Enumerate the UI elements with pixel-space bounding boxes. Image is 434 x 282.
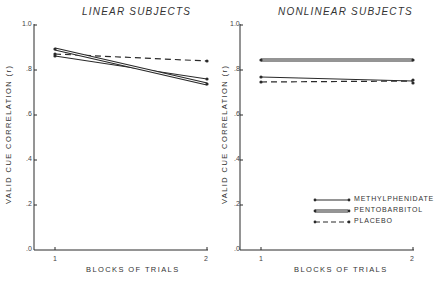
- plot-area: [216, 0, 432, 282]
- nonlinear-subjects-panel: NONLINEAR SUBJECTS VALID CUE CORRELATION…: [216, 0, 432, 282]
- legend-placebo: PLACEBO: [354, 217, 393, 224]
- legend: [314, 199, 351, 224]
- plot-area: [0, 0, 216, 282]
- linear-subjects-panel: LINEAR SUBJECTS VALID CUE CORRELATION (r…: [0, 0, 216, 282]
- legend-pentobarbitol: PENTOBARBITOL: [354, 206, 423, 213]
- legend-methylphenidate: METHYLPHENIDATE: [354, 195, 434, 202]
